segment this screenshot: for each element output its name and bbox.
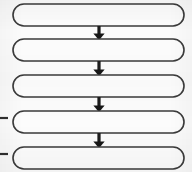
flow-connector-3	[93, 97, 104, 112]
diagram-canvas	[0, 0, 192, 172]
flow-node-2[interactable]	[13, 39, 184, 61]
flow-connector-1	[93, 26, 104, 40]
flow-node-5[interactable]	[13, 147, 184, 169]
node-4-shape	[13, 111, 184, 133]
flow-connector-2	[93, 61, 104, 76]
flowchart-svg	[0, 0, 192, 172]
flow-node-1[interactable]	[13, 4, 184, 26]
node-2-shape	[13, 39, 184, 61]
flow-node-3[interactable]	[13, 75, 184, 97]
node-5-shape	[13, 147, 184, 169]
node-1-shape	[13, 4, 184, 26]
flow-node-4[interactable]	[13, 111, 184, 133]
flow-connector-4	[93, 133, 104, 148]
node-3-shape	[13, 75, 184, 97]
